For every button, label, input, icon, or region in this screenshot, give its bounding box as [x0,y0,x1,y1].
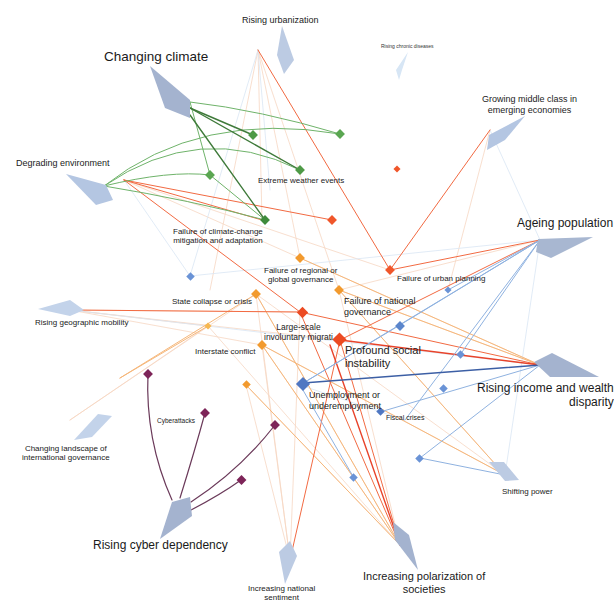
trend-node-increasing-polarization[interactable] [393,522,418,570]
label-line: governance [344,307,416,318]
label-state-collapse: State collapse or crisis [172,297,252,306]
label-line: instability [345,357,421,370]
trend-node-shifting-power[interactable] [489,462,519,481]
risk-node-economic[interactable] [186,272,194,280]
label-rising-geographic-mobility: Rising geographic mobility [35,318,128,327]
trend-node-degrading-environment[interactable] [66,174,113,205]
label-rising-income-disparity: Rising income and wealth disparity [477,381,614,409]
risk-node-extreme-weather[interactable] [295,165,305,175]
label-failure-urban-planning: Failure of urban planning [397,274,486,283]
trend-node-rising-geographic-mobility[interactable] [38,300,84,316]
risk-node-economic[interactable] [456,350,464,358]
label-involuntary-migration: Large-scale involuntary migrati [264,322,333,342]
risk-node-cyberattacks[interactable] [200,408,210,418]
label-unemployment: Unemployment or underemployment [309,390,381,411]
risk-node-societal[interactable] [393,165,400,172]
label-line: societies [363,583,485,596]
label-line: emerging economies [482,105,577,116]
risk-node-environmental[interactable] [248,130,258,140]
risk-node-failure-urban-planning[interactable] [385,265,395,275]
label-line: Failure of national [344,296,416,307]
label-changing-climate: Changing climate [104,49,208,65]
label-rising-cyber-dependency: Rising cyber dependency [93,538,228,552]
label-line: mitigation and adaptation [173,236,263,245]
label-ageing-population: Ageing population [517,216,613,230]
label-line: Profound social [345,344,421,357]
risk-node-technological[interactable] [143,369,153,379]
label-rising-urbanization: Rising urbanization [242,15,319,26]
label-failure-national-gov: Failure of national governance [344,296,416,317]
label-line: Increasing polarization of [363,570,485,583]
label-line: global governance [264,275,337,284]
label-line: Unemployment or [309,390,381,401]
trend-node-changing-climate[interactable] [150,66,190,118]
risk-node-failure-regional-gov[interactable] [295,253,305,263]
label-increasing-national-sentiment: Increasing national sentiment [248,584,315,603]
label-profound-social-instability: Profound social instability [345,344,421,370]
label-growing-middle-class: Growing middle class in emerging economi… [482,94,577,115]
label-degrading-environment: Degrading environment [16,158,110,169]
label-line: Failure of regional or [264,266,337,275]
label-line: underemployment [309,401,381,412]
label-changing-landscape-governance: Changing landscape of international gove… [22,444,110,463]
label-line: involuntary migrati [264,332,333,342]
risk-node-involuntary-migration[interactable] [297,307,308,318]
label-rising-chronic-diseases: Rising chronic diseases [381,44,434,50]
risk-node-environmental[interactable] [335,129,345,139]
trend-node-growing-middle-class[interactable] [487,116,525,150]
label-fiscal-crises: Fiscal crises [386,414,425,422]
label-failure-regional-gov: Failure of regional or global governance [264,266,337,285]
label-interstate-conflict: Interstate conflict [195,347,255,356]
label-line: Failure of climate-change [173,227,263,236]
trend-node-rising-chronic-diseases[interactable] [396,52,408,80]
label-failure-climate: Failure of climate-change mitigation and… [173,227,263,246]
label-extreme-weather: Extreme weather events [258,176,344,185]
risk-node-state-collapse[interactable] [251,289,261,299]
risk-node-geopolitical[interactable] [242,380,250,388]
label-line: Increasing national [248,584,315,593]
label-line: Rising income and wealth [477,381,614,395]
label-increasing-polarization: Increasing polarization of societies [363,570,485,596]
trend-node-rising-urbanization[interactable] [277,26,294,74]
trend-node-increasing-national-sentiment[interactable] [279,541,297,584]
risk-node-economic[interactable] [439,384,447,392]
label-line: Large-scale [264,322,333,332]
risk-node-societal[interactable] [327,215,337,225]
risk-trend-network [0,0,614,605]
risk-node-technological[interactable] [237,475,247,485]
trend-node-ageing-population[interactable] [536,237,593,258]
label-line: disparity [477,395,614,409]
label-line: Growing middle class in [482,94,577,105]
edges [70,50,540,560]
risk-node-unemployment[interactable] [296,377,310,391]
trend-node-rising-income-disparity[interactable] [534,353,599,377]
label-shifting-power: Shifting power [502,487,553,496]
trend-node-rising-cyber-dependency[interactable] [160,497,192,539]
label-line: Changing landscape of [22,444,110,453]
label-cyberattacks: Cyberattacks [157,417,195,425]
label-line: international governance [22,453,110,462]
risk-node-economic[interactable] [349,473,357,481]
trend-node-changing-landscape-governance[interactable] [74,414,112,440]
label-line: sentiment [248,593,315,602]
